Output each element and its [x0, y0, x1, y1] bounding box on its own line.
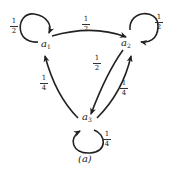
- node-a2: a2: [121, 38, 131, 49]
- node-a1: a1: [41, 39, 51, 50]
- node-a3: a3: [82, 112, 92, 123]
- label-a3-a2: 14: [120, 80, 128, 97]
- edge-a3-a1: [45, 56, 78, 118]
- edge-a2-a2: [130, 14, 158, 43]
- label-a3-a3: 14: [103, 131, 111, 148]
- figure-caption: (a): [78, 153, 92, 164]
- label-a1-a1: 12: [10, 18, 18, 35]
- label-a2-a2: 12: [155, 14, 163, 31]
- edge-a3-a3: [73, 130, 103, 153]
- label-a1-a2: 12: [82, 16, 90, 33]
- label-a3-a1: 14: [40, 75, 48, 92]
- label-a2-a3: 12: [93, 55, 101, 72]
